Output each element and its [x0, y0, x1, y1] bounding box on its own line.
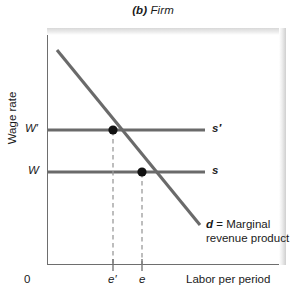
demand-curve-label: d = Marginal revenue product: [206, 217, 289, 245]
equilibrium-point-low: [137, 167, 146, 176]
xtick-label-e: e: [139, 273, 145, 285]
figure-panel-firm: (b) Firm Wage rate Labor per period 0 W′…: [0, 0, 306, 300]
demand-label-line2: revenue product: [206, 232, 289, 244]
ytick-label-wage-low: W: [28, 164, 39, 176]
supply-curve-label-high: s′: [212, 122, 221, 134]
origin-label: 0: [24, 273, 30, 285]
ytick-label-wage-high: W′: [25, 122, 38, 134]
demand-symbol: d: [206, 218, 213, 230]
equilibrium-point-high: [108, 125, 117, 134]
xtick-label-e-prime: e′: [108, 273, 117, 285]
chart-svg: [0, 0, 306, 300]
demand-curve: [57, 50, 200, 225]
x-axis-label: Labor per period: [186, 273, 270, 285]
demand-equals-text: = Marginal: [213, 218, 270, 230]
y-axis-label: Wage rate: [6, 81, 18, 155]
supply-curve-label-low: s: [212, 164, 218, 176]
